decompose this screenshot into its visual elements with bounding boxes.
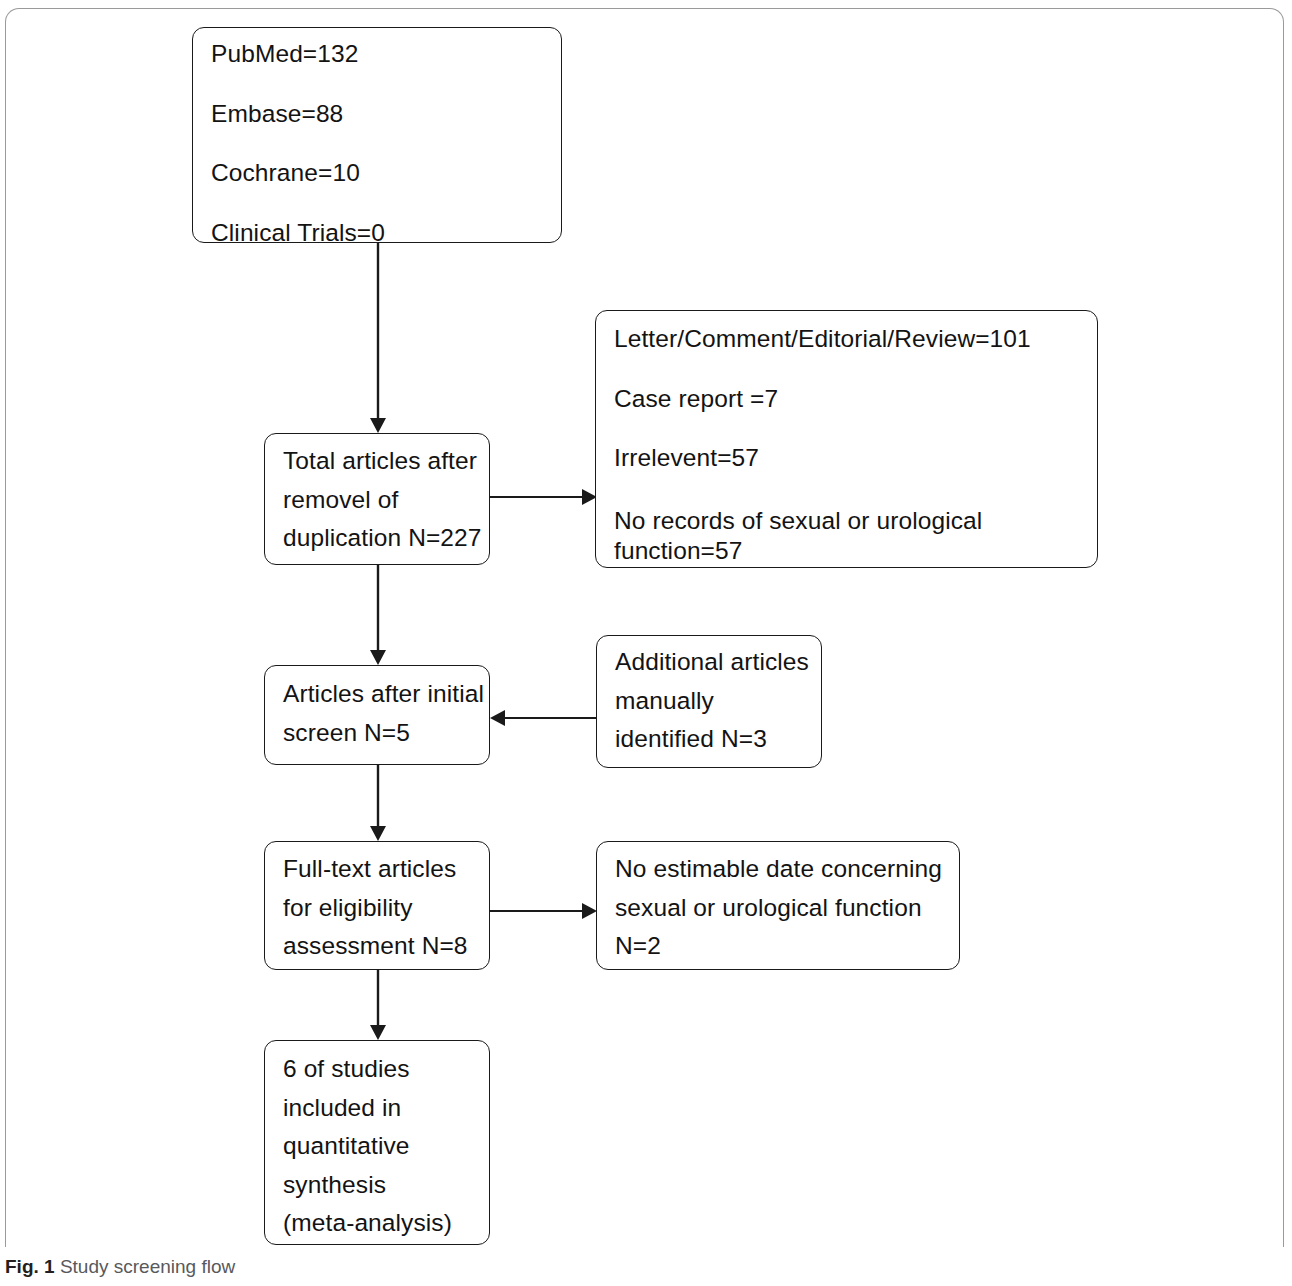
full-text-line-2: for eligibility [283,896,473,921]
full-text-line-1: Full-text articles [283,857,473,882]
excluded-screening-line-1: Letter/Comment/Editorial/Review=101 [614,327,1081,352]
excluded-eligibility-line-3: N=2 [615,934,943,959]
included-line-2: included in [283,1096,473,1121]
edge-full-text-to-included [370,970,386,1040]
included-line-1: 6 of studies [283,1057,473,1082]
dedup-line-2: removel of [283,488,473,513]
source-line-clinical-trials: Clinical Trials=0 [211,221,545,246]
node-excluded-no-estimable-data: No estimable date concerning sexual or u… [596,841,960,970]
node-excluded-at-screening: Letter/Comment/Editorial/Review=101 Case… [595,310,1098,568]
excluded-eligibility-line-1: No estimable date concerning [615,857,943,882]
figure-caption-text: Study screening flow [60,1256,235,1277]
edge-dedup-to-initial-screen [370,565,386,665]
node-articles-after-initial-screen: Articles after initial screen N=5 [264,665,490,765]
edge-dedup-to-excluded-screening [490,489,597,505]
manual-line-2: manually [615,689,805,714]
dedup-line-1: Total articles after [283,449,473,474]
figure-root: PubMed=132 Embase=88 Cochrane=10 Clinica… [0,0,1292,1286]
edge-full-text-to-excluded-eligibility [490,903,597,919]
node-additional-articles-manually-identified: Additional articles manually identified … [596,635,822,768]
node-full-text-articles-for-eligibility-assessment: Full-text articles for eligibility asses… [264,841,490,970]
dedup-line-3: duplication N=227 [283,526,473,551]
edge-initial-screen-to-full-text [370,765,386,841]
excluded-screening-line-2: Case report =7 [614,387,1081,412]
full-text-line-3: assessment N=8 [283,934,473,959]
included-line-4: synthesis [283,1173,473,1198]
initial-screen-line-2: screen N=5 [283,721,473,746]
node-total-articles-after-removal-of-duplication: Total articles after removel of duplicat… [264,433,490,565]
excluded-screening-line-3: Irrelevent=57 [614,446,1081,471]
source-line-pubmed: PubMed=132 [211,42,545,67]
included-line-3: quantitative [283,1134,473,1159]
excluded-eligibility-line-2: sexual or urological function [615,896,943,921]
excluded-screening-line-4: No records of sexual or urological funct… [614,506,1014,567]
node-database-search-results: PubMed=132 Embase=88 Cochrane=10 Clinica… [192,27,562,243]
manual-line-1: Additional articles [615,650,805,675]
edge-manual-to-initial-screen [490,710,596,726]
source-line-embase: Embase=88 [211,102,545,127]
manual-line-3: identified N=3 [615,727,805,752]
node-studies-included-in-quantitative-synthesis: 6 of studies included in quantitative sy… [264,1040,490,1245]
edge-sources-to-dedup [370,243,386,433]
included-line-5: (meta-analysis) [283,1211,473,1236]
figure-caption-label: Fig. 1 [5,1256,55,1277]
initial-screen-line-1: Articles after initial [283,682,473,707]
figure-caption: Fig. 1 Study screening flow [5,1256,235,1279]
source-line-cochrane: Cochrane=10 [211,161,545,186]
